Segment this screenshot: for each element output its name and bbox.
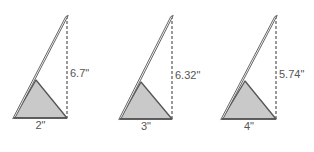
diagram-canvas: 6.7"2" 6.32"3" 5.74"4" <box>0 0 314 152</box>
base-label: 2" <box>35 119 45 131</box>
figure-2: 6.32"3" <box>119 15 201 132</box>
height-label: 6.7" <box>70 67 89 79</box>
base-label: 4" <box>244 120 254 132</box>
figure-3: 5.74"4" <box>221 15 305 132</box>
base-label: 3" <box>141 120 151 132</box>
shadow-triangle <box>14 80 67 118</box>
height-label: 5.74" <box>279 68 304 80</box>
figure-1: 6.7"2" <box>13 15 90 131</box>
shadow-triangle <box>222 81 276 119</box>
diagram: 6.7"2" 6.32"3" 5.74"4" <box>0 0 314 152</box>
shadow-triangle <box>120 82 172 119</box>
height-label: 6.32" <box>175 69 200 81</box>
